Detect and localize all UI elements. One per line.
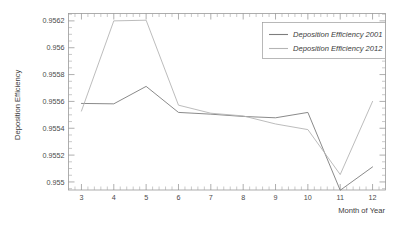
chart-container: 0.9550.95520.95540.95560.95580.9560.9562… [0, 0, 404, 227]
x-axis-title: Month of Year [338, 206, 385, 215]
chart-legend: Deposition Efficiency 2001 Deposition Ef… [263, 23, 386, 59]
y-axis-title: Deposition Efficiency [13, 69, 22, 140]
legend-box [263, 23, 386, 59]
y-tick-label: 0.9556 [43, 97, 65, 106]
legend-label-2012: Deposition Efficiency 2012 [293, 44, 383, 53]
y-tick-label: 0.9562 [43, 16, 65, 25]
x-tick-label: 10 [304, 193, 312, 202]
y-tick-label: 0.956 [47, 43, 65, 52]
x-tick-label: 12 [369, 193, 377, 202]
x-tick-label: 11 [336, 193, 343, 202]
x-tick-label: 7 [209, 193, 213, 202]
x-tick-label: 3 [79, 193, 83, 202]
y-tick-label: 0.9558 [43, 70, 65, 79]
x-tick-label: 8 [241, 193, 245, 202]
y-tick-label: 0.955 [47, 178, 65, 187]
x-tick-label: 9 [274, 193, 278, 202]
legend-label-2001: Deposition Efficiency 2001 [293, 30, 383, 39]
x-tick-label: 5 [144, 193, 148, 202]
deposition-efficiency-line-chart: 0.9550.95520.95540.95560.95580.9560.9562… [0, 0, 404, 227]
y-tick-label: 0.9554 [43, 124, 65, 133]
x-tick-label: 6 [176, 193, 180, 202]
x-tick-label: 4 [112, 193, 116, 202]
y-tick-label: 0.9552 [43, 151, 65, 160]
